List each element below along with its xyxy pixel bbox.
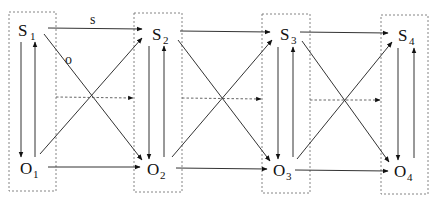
edge-s3-to-o4 (302, 41, 389, 162)
edge-o3-to-s4 (297, 42, 392, 159)
node-s2: S 2 (152, 25, 169, 46)
edge-s1-to-o2 (44, 34, 142, 160)
node-s4: S 4 (398, 26, 415, 47)
node-s3: S 3 (280, 25, 297, 46)
node-o1-sub: 1 (33, 168, 39, 180)
node-o4: O 4 (394, 162, 413, 183)
edge-label-o: o (65, 52, 72, 67)
edge-o1-to-s2 (40, 38, 142, 154)
node-s1-sub: 1 (30, 30, 36, 42)
node-s3-base: S (280, 25, 289, 44)
node-s4-sub: 4 (409, 35, 415, 47)
node-s1-base: S (18, 21, 27, 40)
edge-label-s: s (90, 12, 95, 27)
node-o3-base: O (273, 161, 285, 180)
node-o2-sub: 2 (160, 169, 166, 181)
node-o4-sub: 4 (407, 171, 413, 183)
node-o2-base: O (147, 160, 159, 179)
node-o1-base: O (20, 159, 32, 178)
node-o3-sub: 3 (286, 170, 292, 182)
node-o1: O 1 (20, 159, 39, 180)
edge-o2-to-o3 (176, 168, 267, 169)
edge-o3-to-o4 (295, 170, 388, 171)
node-s3-sub: 3 (291, 34, 297, 46)
node-s2-base: S (152, 25, 161, 44)
dashed-edge-slice1-to-slice2 (56, 97, 133, 98)
node-o3: O 3 (273, 161, 292, 182)
node-s1: S 1 (18, 21, 36, 42)
node-s2-sub: 2 (163, 34, 169, 46)
diagram-canvas: s o S 1 S 2 S 3 S 4 O 1 O 2 O 3 O 4 (0, 0, 437, 200)
edge-s1-to-s2 (48, 28, 142, 29)
node-o4-base: O (394, 162, 406, 181)
node-o2: O 2 (147, 160, 166, 181)
node-s4-base: S (398, 26, 407, 45)
edge-s2-to-s3 (180, 31, 270, 32)
edge-s3-to-s4 (300, 32, 388, 33)
